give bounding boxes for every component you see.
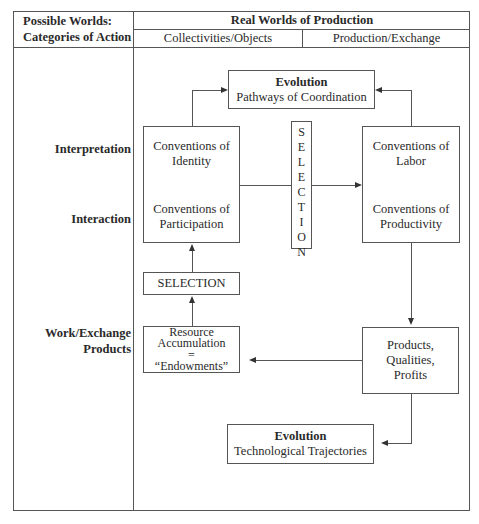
technological-trajectories: Technological Trajectories <box>234 444 367 459</box>
evolution-title: Evolution <box>275 75 327 90</box>
arrow-left-icon <box>249 357 256 363</box>
row-label-interpretation: Interpretation <box>55 141 131 157</box>
connector-resource-to-selection <box>192 302 193 326</box>
connector-selection-to-right <box>312 185 355 186</box>
products-qualities-profits-box: Products, Qualities, Profits <box>362 327 459 394</box>
connector-identity-to-evolution <box>192 90 222 91</box>
selection-letter: T <box>298 200 305 215</box>
header-collectivities-objects: Collectivities/Objects <box>134 30 302 46</box>
selection-horizontal-box: SELECTION <box>143 272 240 295</box>
evolution-pathways-box: Evolution Pathways of Coordination <box>228 70 375 109</box>
frame-left <box>13 11 14 511</box>
participation-line2: Participation <box>153 217 230 232</box>
arrow-left-icon <box>375 87 382 93</box>
resource-accumulation-box: Resource Accumulation = “Endowments” <box>143 326 240 373</box>
connector-products-down <box>411 394 412 444</box>
identity-line2: Identity <box>153 154 230 169</box>
selection-label: SELECTION <box>157 276 225 291</box>
connector-productivity-to-products <box>411 243 412 319</box>
pathways-of-coordination: Pathways of Coordination <box>236 90 367 105</box>
productivity-line1: Conventions of <box>373 202 450 217</box>
arrow-left-icon <box>381 440 388 446</box>
evolution-technological-box: Evolution Technological Trajectories <box>227 424 374 464</box>
conventions-labor-productivity-box: Conventions of Labor Conventions of Prod… <box>362 126 460 243</box>
products-line3: Profits <box>394 368 427 383</box>
labor-line1: Conventions of <box>373 139 450 154</box>
connector-labor-to-evolution <box>382 90 412 91</box>
row-label-interaction: Interaction <box>71 211 131 227</box>
labor-line2: Labor <box>373 154 450 169</box>
connector-selection-to-participation <box>192 250 193 272</box>
products-line2: Qualities, <box>386 353 434 368</box>
header-bottom-line <box>13 47 470 48</box>
connector-products-to-resource <box>256 360 362 361</box>
selection-vertical-box: S E L E C T I O N <box>291 121 312 249</box>
connector-left-to-selection <box>240 185 292 186</box>
selection-letter: I <box>300 215 304 230</box>
arrow-down-icon <box>408 318 414 325</box>
header-categories-of-action: Categories of Action <box>23 29 131 45</box>
arrow-up-icon <box>189 296 195 303</box>
resource-endowments: “Endowments” <box>155 361 228 373</box>
selection-letter: S <box>298 125 305 140</box>
row-label-products: Products <box>83 341 131 357</box>
row-label-work-exchange: Work/Exchange <box>45 325 131 341</box>
selection-letter: E <box>298 170 305 185</box>
products-line1: Products, <box>387 338 434 353</box>
column-divider <box>133 11 134 511</box>
header-real-worlds: Real Worlds of Production <box>134 12 470 28</box>
header-production-exchange: Production/Exchange <box>303 30 470 46</box>
header-possible-worlds: Possible Worlds: <box>23 13 112 29</box>
connector-identity-up <box>192 90 193 126</box>
identity-line1: Conventions of <box>153 139 230 154</box>
frame-right <box>469 11 470 511</box>
connector-labor-up <box>411 90 412 126</box>
evolution-title: Evolution <box>274 429 326 444</box>
selection-letter: L <box>298 155 305 170</box>
frame-bottom <box>13 510 470 511</box>
connector-products-to-evolution-bottom <box>388 443 412 444</box>
productivity-line2: Productivity <box>373 217 450 232</box>
selection-letter: N <box>297 245 306 260</box>
arrow-right-icon <box>355 182 362 188</box>
arrow-right-icon <box>221 87 228 93</box>
selection-letter: O <box>297 230 306 245</box>
selection-letter: C <box>297 185 305 200</box>
arrow-up-icon <box>189 244 195 251</box>
participation-line1: Conventions of <box>153 202 230 217</box>
conventions-identity-participation-box: Conventions of Identity Conventions of P… <box>143 126 240 243</box>
selection-letter: E <box>298 140 305 155</box>
